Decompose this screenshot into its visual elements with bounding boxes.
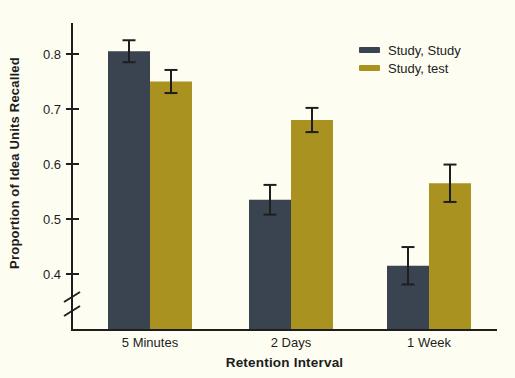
- legend-label-study-study: Study, Study: [388, 43, 461, 58]
- y-tick-label: 0.5: [43, 212, 61, 227]
- legend-label-study-test: Study, test: [388, 61, 448, 76]
- bar-1-week-series-1: [429, 183, 471, 330]
- bar-5-minutes-series-0: [108, 51, 150, 330]
- x-axis-title: Retention Interval: [72, 355, 497, 370]
- y-tick-label: 0.4: [43, 267, 61, 282]
- category-label: 5 Minutes: [122, 335, 179, 350]
- legend: Study, Study Study, test: [359, 42, 461, 76]
- category-label: 2 Days: [271, 335, 312, 350]
- y-tick-label: 0.6: [43, 157, 61, 172]
- y-tick-label: 0.7: [43, 102, 61, 117]
- bar-2-days-series-0: [249, 200, 291, 330]
- y-tick-label: 0.8: [43, 47, 61, 62]
- bar-2-days-series-1: [291, 120, 333, 330]
- category-label: 1 Week: [407, 335, 451, 350]
- bar-5-minutes-series-1: [150, 82, 192, 331]
- legend-swatch-study-test: [359, 65, 380, 71]
- legend-swatch-study-study: [359, 47, 380, 53]
- bar-chart-figure: 0.40.50.60.70.85 Minutes2 Days1 Week Pro…: [0, 0, 515, 378]
- legend-item-study-study: Study, Study: [359, 42, 461, 58]
- legend-item-study-test: Study, test: [359, 60, 461, 76]
- y-axis-title: Proportion of Idea Units Recalled: [7, 13, 25, 313]
